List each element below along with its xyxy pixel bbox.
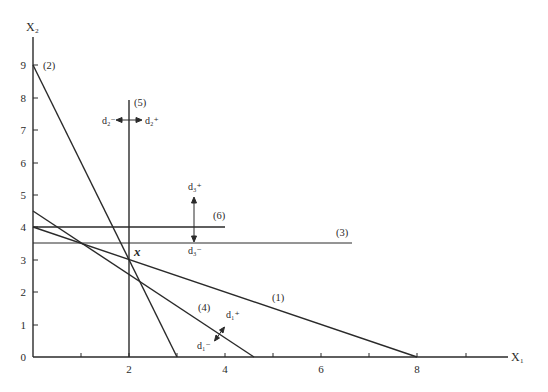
svg-text:4: 4 bbox=[222, 363, 228, 375]
label-6: (6) bbox=[213, 210, 226, 222]
goal-programming-graph: X₂ X₁ 0 1 2 3 4 5 6 7 8 9 2 4 6 8 (1) bbox=[0, 0, 548, 392]
d3-minus-label: d₃⁻ bbox=[188, 245, 202, 256]
label-2: (2) bbox=[43, 60, 56, 72]
d1-plus-label: d₁⁺ bbox=[226, 309, 240, 320]
d2-plus-arrowhead-icon bbox=[136, 118, 142, 123]
d3-minus-arrowhead-icon bbox=[192, 236, 197, 242]
svg-text:2: 2 bbox=[126, 363, 132, 375]
svg-text:3: 3 bbox=[21, 254, 27, 266]
d2-minus-arrowhead-icon bbox=[116, 118, 122, 123]
svg-text:7: 7 bbox=[21, 124, 27, 136]
svg-text:0: 0 bbox=[21, 351, 27, 363]
svg-text:9: 9 bbox=[21, 59, 27, 71]
d3-plus-label: d₃⁺ bbox=[188, 181, 202, 192]
d3-plus-arrowhead-icon bbox=[192, 197, 197, 203]
label-1: (1) bbox=[272, 292, 285, 304]
svg-text:2: 2 bbox=[21, 286, 27, 298]
svg-text:6: 6 bbox=[318, 363, 324, 375]
deviation-labels: d₂⁻ d₂⁺ d₃⁺ d₃⁻ d₁⁺ d₁⁻ bbox=[102, 115, 240, 351]
axes bbox=[33, 37, 508, 357]
svg-text:5: 5 bbox=[21, 189, 27, 201]
label-3: (3) bbox=[336, 227, 349, 239]
d2-plus-label: d₂⁺ bbox=[145, 115, 159, 126]
y-tick-labels: 0 1 2 3 4 5 6 7 8 9 bbox=[21, 59, 27, 363]
svg-text:4: 4 bbox=[21, 221, 27, 233]
d2-minus-label: d₂⁻ bbox=[102, 115, 116, 126]
x-axis-title: X₁ bbox=[511, 350, 524, 364]
svg-text:8: 8 bbox=[414, 363, 420, 375]
label-5: (5) bbox=[134, 97, 147, 109]
svg-text:8: 8 bbox=[21, 92, 27, 104]
label-4: (4) bbox=[198, 302, 211, 314]
svg-text:6: 6 bbox=[21, 157, 27, 169]
y-axis-title: X₂ bbox=[26, 20, 39, 34]
constraint-line-4 bbox=[33, 211, 254, 357]
x-tick-labels: 2 4 6 8 bbox=[126, 363, 420, 375]
d1-minus-label: d₁⁻ bbox=[197, 340, 211, 351]
svg-text:1: 1 bbox=[21, 319, 27, 331]
solution-point-label: x bbox=[133, 244, 141, 259]
y-ticks bbox=[33, 65, 38, 325]
constraint-line-2 bbox=[33, 65, 177, 357]
